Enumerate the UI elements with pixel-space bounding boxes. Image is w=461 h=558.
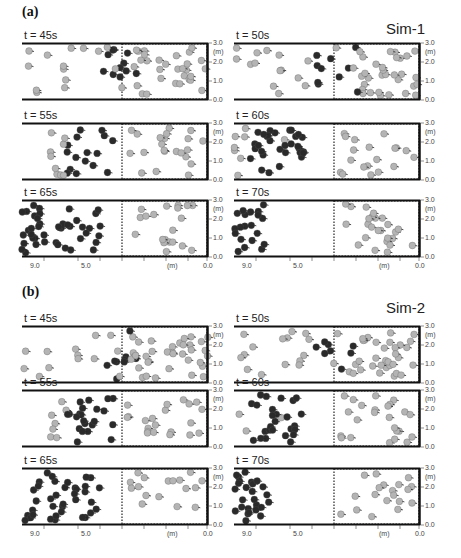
x-tick-label: 0.0 — [415, 530, 425, 537]
time-label: t = 50s — [236, 29, 269, 41]
y-tick-label: 2.0 — [213, 58, 223, 65]
y-tick-label: 0.0 — [425, 443, 435, 450]
simulation-panel: t = 70s3.0(m)2.01.00.09.05.0(m)0.0 — [234, 200, 420, 257]
simulation-panel: t = 55s3.0(m)2.01.00.0 — [22, 390, 208, 447]
simulation-panel: t = 65s3.0(m)2.01.00.09.05.0(m)0.0 — [22, 200, 208, 257]
y-tick-label: 2.0 — [213, 138, 223, 145]
x-tick-label: 5.0 — [81, 262, 91, 269]
y-tick-label: 1.0 — [213, 424, 223, 431]
corridor-plot — [234, 326, 420, 383]
x-tick-label: 5.0 — [293, 530, 303, 537]
y-tick-label: 1.0 — [213, 234, 223, 241]
time-label: t = 60s — [236, 109, 269, 121]
y-tick-label: 1.0 — [213, 157, 223, 164]
part-label: (b) — [22, 284, 39, 300]
y-tick-label: 1.0 — [425, 502, 435, 509]
corridor-plot — [22, 200, 208, 257]
y-tick-label: (m) — [213, 128, 224, 135]
y-tick-label: 1.0 — [425, 424, 435, 431]
time-label: t = 65s — [24, 186, 57, 198]
y-tick-label: 3.0 — [213, 322, 223, 329]
time-label: t = 70s — [236, 454, 269, 466]
y-tick-label: 0.0 — [213, 379, 223, 386]
y-tick-label: 3.0 — [213, 39, 223, 46]
y-tick-label: (m) — [213, 473, 224, 480]
y-tick-label: 0.0 — [213, 521, 223, 528]
y-tick-label: 2.0 — [213, 405, 223, 412]
simulation-panel: t = 60s3.0(m)2.01.00.0 — [234, 123, 420, 180]
y-tick-label: (m) — [213, 205, 224, 212]
x-tick-label: (m) — [167, 262, 178, 269]
x-tick-label: 9.0 — [30, 262, 40, 269]
part-label: (a) — [22, 4, 38, 20]
corridor-plot — [234, 43, 420, 100]
time-label: t = 50s — [236, 312, 269, 324]
corridor-plot — [22, 326, 208, 383]
y-tick-label: (m) — [213, 331, 224, 338]
time-label: t = 45s — [24, 312, 57, 324]
corridor-plot — [22, 43, 208, 100]
y-tick-label: 2.0 — [213, 215, 223, 222]
x-tick-label: (m) — [379, 262, 390, 269]
simulation-panel: t = 55s3.0(m)2.01.00.0 — [22, 123, 208, 180]
time-label: t = 55s — [24, 109, 57, 121]
x-tick-label: 9.0 — [242, 530, 252, 537]
y-tick-label: 1.0 — [425, 77, 435, 84]
y-tick-label: 1.0 — [213, 77, 223, 84]
y-tick-label: 1.0 — [425, 360, 435, 367]
time-label: t = 65s — [24, 454, 57, 466]
y-tick-label: (m) — [425, 395, 436, 402]
y-tick-label: 2.0 — [425, 483, 435, 490]
corridor-plot — [234, 390, 420, 447]
time-label: t = 70s — [236, 186, 269, 198]
y-tick-label: 2.0 — [425, 215, 435, 222]
y-tick-label: 2.0 — [425, 405, 435, 412]
y-tick-label: 3.0 — [213, 119, 223, 126]
y-tick-label: 3.0 — [213, 196, 223, 203]
simulation-panel: t = 45s3.0(m)2.01.00.0 — [22, 326, 208, 383]
x-tick-label: 5.0 — [293, 262, 303, 269]
y-tick-label: 1.0 — [425, 234, 435, 241]
y-tick-label: 0.0 — [425, 176, 435, 183]
y-tick-label: 3.0 — [425, 322, 435, 329]
corridor-plot — [22, 468, 208, 525]
corridor-plot — [22, 390, 208, 447]
sim-label: Sim-2 — [386, 299, 425, 316]
x-tick-label: 0.0 — [415, 262, 425, 269]
x-tick-label: (m) — [167, 530, 178, 537]
y-tick-label: 2.0 — [425, 58, 435, 65]
y-tick-label: 0.0 — [213, 176, 223, 183]
y-tick-label: 0.0 — [425, 521, 435, 528]
y-tick-label: 0.0 — [213, 96, 223, 103]
y-tick-label: (m) — [213, 395, 224, 402]
y-tick-label: (m) — [425, 331, 436, 338]
y-tick-label: 2.0 — [425, 138, 435, 145]
simulation-panel: t = 65s3.0(m)2.01.00.09.05.0(m)0.0 — [22, 468, 208, 525]
corridor-plot — [234, 468, 420, 525]
y-tick-label: 2.0 — [213, 483, 223, 490]
simulation-panel: t = 70s3.0(m)2.01.00.09.05.0(m)0.0 — [234, 468, 420, 525]
time-label: t = 60s — [236, 376, 269, 388]
y-tick-label: 3.0 — [425, 196, 435, 203]
x-tick-label: 9.0 — [242, 262, 252, 269]
y-tick-label: 3.0 — [213, 386, 223, 393]
x-tick-label: 9.0 — [30, 530, 40, 537]
y-tick-label: 0.0 — [425, 96, 435, 103]
y-tick-label: 3.0 — [425, 464, 435, 471]
time-label: t = 45s — [24, 29, 57, 41]
x-tick-label: 5.0 — [81, 530, 91, 537]
corridor-plot — [22, 123, 208, 180]
y-tick-label: 3.0 — [425, 386, 435, 393]
corridor-plot — [234, 200, 420, 257]
y-tick-label: 2.0 — [213, 341, 223, 348]
y-tick-label: (m) — [425, 128, 436, 135]
y-tick-label: 0.0 — [213, 253, 223, 260]
y-tick-label: 0.0 — [425, 379, 435, 386]
y-tick-label: 3.0 — [425, 119, 435, 126]
y-tick-label: (m) — [213, 48, 224, 55]
y-tick-label: (m) — [425, 205, 436, 212]
y-tick-label: 1.0 — [213, 502, 223, 509]
y-tick-label: 0.0 — [213, 443, 223, 450]
y-tick-label: 1.0 — [425, 157, 435, 164]
simulation-panel: t = 45s3.0(m)2.01.00.0 — [22, 43, 208, 100]
